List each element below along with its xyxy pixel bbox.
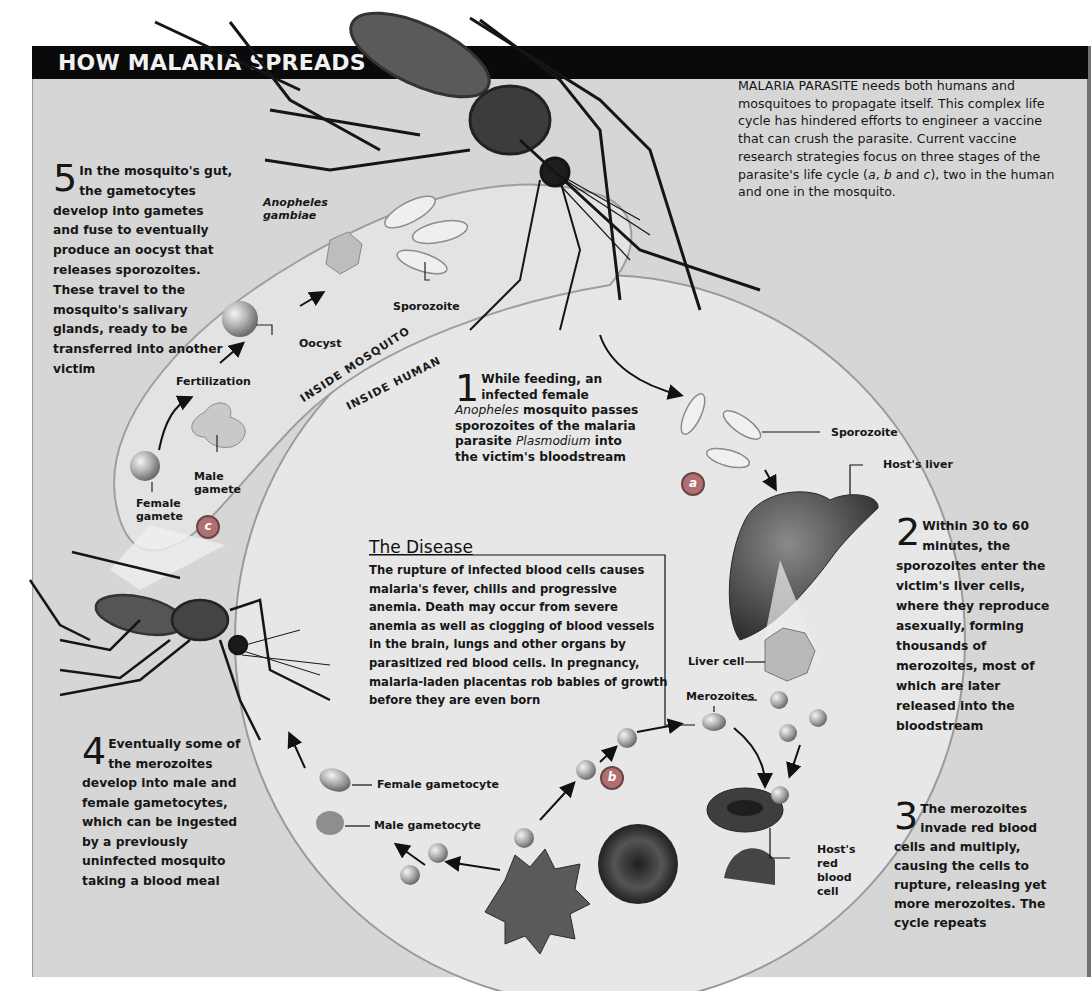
stage-badge-b: b (600, 766, 624, 790)
disease-title: The Disease (369, 537, 473, 557)
species-label: Anopheles gambiae (263, 196, 328, 222)
step-4-number: 4 (82, 736, 106, 766)
label-sporozoite-mosquito: Sporozoite (393, 300, 460, 313)
step-2: 2Within 30 to 60 minutes, the sporozoite… (896, 516, 1056, 736)
label-female-gamete: Female gamete (136, 497, 186, 523)
label-hosts-liver: Host's liver (883, 458, 953, 471)
stage-badge-a: a (681, 472, 705, 496)
label-female-gametocyte: Female gametocyte (377, 778, 499, 791)
label-oocyst: Oocyst (299, 337, 341, 350)
step-4: 4Eventually some of the merozoites devel… (82, 735, 242, 891)
label-male-gametocyte: Male gametocyte (374, 819, 481, 832)
disease-text: The rupture of infected blood cells caus… (369, 561, 669, 710)
intro-stage-b: b (884, 167, 892, 182)
step-2-number: 2 (896, 517, 920, 547)
step-3: 3The merozoites invade red blood cells a… (894, 800, 1064, 933)
step-1-number: 1 (455, 373, 479, 403)
female-gamete-cell (130, 451, 160, 481)
intro-paragraph: MALARIA PARASITE needs both humans and m… (738, 77, 1068, 201)
male-gametocyte-cell (316, 811, 344, 835)
intro-lead: MALARIA PARASITE (738, 78, 858, 93)
step-3-number: 3 (894, 801, 918, 831)
label-hosts-rbc: Host's red blood cell (817, 843, 849, 899)
label-sporozoite-human: Sporozoite (831, 426, 898, 439)
label-fertilization: Fertilization (176, 375, 251, 388)
step-5: 5In the mosquito's gut, the gametocytes … (53, 162, 233, 380)
label-liver-cell: Liver cell (688, 655, 744, 668)
stage-badge-c: c (196, 515, 220, 539)
label-male-gamete: Male gamete (194, 470, 244, 496)
intro-stage-a: a (868, 167, 876, 182)
label-merozoites: Merozoites (686, 690, 754, 703)
step-5-number: 5 (53, 163, 77, 193)
infected-red-blood-cell (598, 824, 678, 904)
step-1: 1While feeding, an infected female Anoph… (455, 372, 645, 466)
